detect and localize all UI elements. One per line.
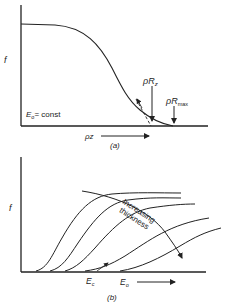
annotation: Increasing thickness: [116, 197, 157, 232]
ec-tick-arrow: [97, 263, 108, 271]
caption-b: (b): [107, 293, 117, 302]
panel-a: f Eo= const ρRz ρRmax ρz (a): [4, 5, 208, 150]
y-label: f: [4, 55, 8, 65]
curve-1: [36, 193, 181, 271]
panel-b: f Increasing thickness Ec Eo (b): [9, 157, 221, 302]
y-label: f: [9, 203, 13, 213]
tangent-arrow: [137, 99, 142, 108]
caption-a: (a): [110, 141, 120, 150]
curve-2: [50, 198, 181, 271]
condition-label: Eo= const: [26, 110, 61, 120]
ec-label: Ec: [86, 276, 95, 287]
figure: f Eo= const ρRz ρRmax ρz (a) f Increasin…: [0, 0, 226, 308]
marker-rz-label: ρRz: [142, 76, 158, 87]
extrapolated-tangent: [136, 99, 151, 126]
marker-rmax-label: ρRmax: [165, 96, 188, 107]
x-label: Eo: [120, 277, 129, 288]
x-label: ρz: [84, 132, 94, 141]
